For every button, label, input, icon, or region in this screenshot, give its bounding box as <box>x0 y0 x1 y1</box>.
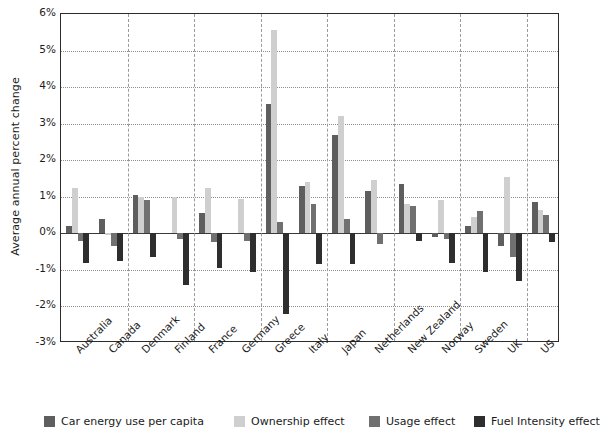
bar <box>150 233 156 257</box>
legend-item[interactable]: Ownership effect <box>234 415 345 428</box>
gridline <box>61 87 558 88</box>
bar <box>217 233 223 268</box>
bar <box>549 233 555 242</box>
group-separator <box>327 14 328 341</box>
group-separator <box>261 14 262 341</box>
bar <box>483 233 489 271</box>
plot-area <box>60 13 559 342</box>
bar <box>144 200 150 233</box>
bar <box>344 219 350 234</box>
y-axis-tick-label: 2% <box>22 153 56 164</box>
group-separator <box>394 14 395 341</box>
bar <box>504 177 510 234</box>
legend-label: Fuel Intensity effect <box>491 415 600 428</box>
bar <box>416 233 422 240</box>
y-axis-tick-label: -3% <box>22 336 56 347</box>
bar <box>516 233 522 281</box>
y-axis-tick-label: 4% <box>22 80 56 91</box>
bar <box>238 199 244 234</box>
y-axis-tick-label: 3% <box>22 117 56 128</box>
y-axis-tick-label: 0% <box>22 226 56 237</box>
bar <box>83 233 89 262</box>
bar <box>498 233 504 246</box>
bar <box>99 219 105 234</box>
bar <box>205 188 211 234</box>
bar <box>338 116 344 233</box>
bar <box>432 233 438 237</box>
legend-label: Ownership effect <box>251 415 345 428</box>
bar <box>371 180 377 233</box>
y-axis-tick-label: 1% <box>22 190 56 201</box>
y-axis-tick-label: -1% <box>22 263 56 274</box>
gridline <box>61 51 558 52</box>
legend-item[interactable]: Car energy use per capita <box>44 415 204 428</box>
gridline <box>61 160 558 161</box>
y-axis-tick-labels: 6%5%4%3%2%1%0%-1%-2%-3% <box>20 0 56 350</box>
bar <box>438 200 444 233</box>
gridline <box>61 306 558 307</box>
legend-swatch-icon <box>234 416 245 427</box>
bar <box>271 30 277 233</box>
bar <box>350 233 356 264</box>
chart-legend: Car energy use per capitaOwnership effec… <box>44 411 554 431</box>
y-axis-tick-label: -2% <box>22 299 56 310</box>
bar <box>316 233 322 264</box>
bar <box>449 233 455 262</box>
x-axis-tick-labels: AustraliaCanadaDenmarkFinlandFranceGerma… <box>60 343 559 405</box>
legend-label: Car energy use per capita <box>61 415 204 428</box>
group-separator <box>527 14 528 341</box>
legend-swatch-icon <box>369 416 380 427</box>
group-separator <box>460 14 461 341</box>
bar <box>410 206 416 233</box>
y-axis-tick-label: 5% <box>22 44 56 55</box>
bar <box>543 215 549 233</box>
gridline <box>61 124 558 125</box>
bar <box>172 197 178 234</box>
y-axis-tick-label: 6% <box>22 7 56 18</box>
bar <box>477 211 483 233</box>
bar <box>311 204 317 233</box>
y-axis-title-wrap: Average annual percent change <box>0 0 22 345</box>
bar <box>283 233 289 313</box>
group-separator <box>194 14 195 341</box>
legend-swatch-icon <box>474 416 485 427</box>
legend-label: Usage effect <box>386 415 455 428</box>
legend-swatch-icon <box>44 416 55 427</box>
legend-item[interactable]: Usage effect <box>369 415 455 428</box>
bar <box>183 233 189 284</box>
bar <box>117 233 123 260</box>
legend-item[interactable]: Fuel Intensity effect <box>474 415 600 428</box>
bar <box>250 233 256 271</box>
group-separator <box>128 14 129 341</box>
bar <box>72 188 78 234</box>
bar <box>377 233 383 244</box>
bar <box>277 222 283 233</box>
